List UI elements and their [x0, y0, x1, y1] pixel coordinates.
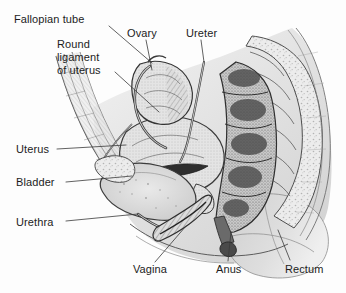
- anatomy-illustration: [0, 0, 346, 293]
- label-ovary: Ovary: [127, 27, 157, 40]
- label-rectum: Rectum: [285, 263, 324, 276]
- leader-ureter: [201, 40, 204, 62]
- pubic-bone: [95, 156, 135, 183]
- label-round-ligament-of-uterus: Round ligament of uterus: [57, 38, 101, 77]
- anus: [220, 242, 236, 257]
- label-bladder: Bladder: [16, 176, 55, 189]
- leader-urethra: [66, 214, 138, 221]
- label-fallopian-tube: Fallopian tube: [14, 13, 85, 26]
- label-ureter: Ureter: [186, 27, 217, 40]
- label-urethra: Urethra: [16, 216, 53, 229]
- label-uterus: Uterus: [16, 143, 49, 156]
- pelvis-sagittal-svg: [0, 0, 346, 293]
- label-anus: Anus: [216, 263, 241, 276]
- label-vagina: Vagina: [133, 263, 167, 276]
